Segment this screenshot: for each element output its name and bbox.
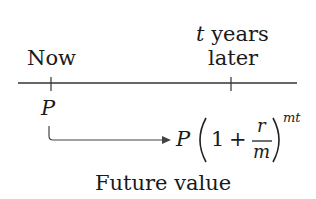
fraction-denominator-m: m bbox=[253, 141, 270, 162]
years-text: years bbox=[204, 22, 268, 46]
label-later: later bbox=[208, 46, 258, 70]
compounding-arrow bbox=[49, 126, 163, 140]
left-paren bbox=[200, 118, 206, 162]
label-t-years: t years bbox=[196, 22, 269, 46]
future-P: P bbox=[176, 127, 190, 151]
fraction-numerator-r: r bbox=[257, 115, 266, 136]
exponent-mt: mt bbox=[283, 110, 301, 125]
arrowhead-icon bbox=[162, 136, 171, 144]
future-value-caption: Future value bbox=[95, 171, 231, 195]
label-now: Now bbox=[27, 46, 76, 70]
right-paren bbox=[273, 118, 279, 162]
present-value-P: P bbox=[41, 96, 55, 120]
future-one: 1 bbox=[211, 127, 224, 151]
future-plus: + bbox=[229, 127, 247, 151]
